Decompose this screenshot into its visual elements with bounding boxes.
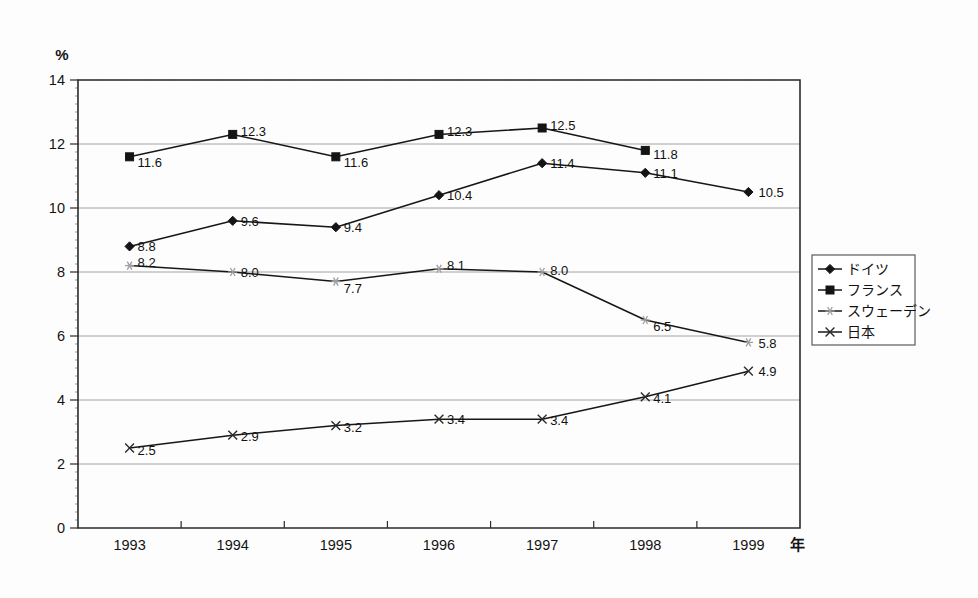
data-point-marker xyxy=(228,268,237,276)
data-point-marker xyxy=(228,216,237,225)
x-axis-unit-label: 年 xyxy=(790,536,805,553)
data-point-label: 12.3 xyxy=(241,124,266,139)
line-chart: 02468101214 1993199419951996199719981999… xyxy=(0,0,978,598)
legend-item-label: フランス xyxy=(847,282,903,298)
series-line xyxy=(130,371,749,448)
y-tick-label: 0 xyxy=(57,520,65,536)
data-point-label: 11.6 xyxy=(344,155,368,170)
data-point-marker xyxy=(229,130,237,138)
data-point-label: 11.4 xyxy=(550,156,574,171)
data-point-marker xyxy=(744,187,753,196)
data-point-label: 4.1 xyxy=(653,391,671,406)
data-point-label: 11.1 xyxy=(653,166,677,181)
data-point-marker xyxy=(538,268,547,276)
axes-frame xyxy=(78,80,800,528)
data-point-marker xyxy=(538,124,546,132)
legend-item-label: 日本 xyxy=(847,324,875,340)
legend-item-label: スウェーデン xyxy=(847,303,931,319)
data-point-marker xyxy=(744,338,753,346)
x-tick-label: 1993 xyxy=(113,537,145,553)
x-tick-label: 1998 xyxy=(629,537,661,553)
data-point-marker xyxy=(125,262,134,270)
data-point-label: 11.6 xyxy=(138,155,162,170)
data-point-marker xyxy=(125,242,134,251)
y-tick-label: 10 xyxy=(49,200,65,216)
data-point-label: 7.7 xyxy=(344,281,362,296)
data-point-label: 9.6 xyxy=(241,214,259,229)
data-point-marker xyxy=(126,153,134,161)
y-tick-label: 12 xyxy=(49,136,65,152)
data-point-marker xyxy=(826,286,834,294)
data-point-marker xyxy=(331,278,340,286)
chart-canvas: 02468101214 1993199419951996199719981999… xyxy=(0,0,978,598)
data-point-label: 10.5 xyxy=(758,185,783,200)
x-axis-ticks: 1993199419951996199719981999 xyxy=(113,521,764,553)
legend-item-label: ドイツ xyxy=(847,261,889,277)
data-point-label: 8.2 xyxy=(138,255,156,270)
data-point-labels: 8.89.69.410.411.411.110.511.612.311.612.… xyxy=(138,118,784,458)
y-tick-label: 2 xyxy=(57,456,65,472)
y-tick-label: 4 xyxy=(57,392,65,408)
data-point-label: 9.4 xyxy=(344,220,362,235)
x-tick-label: 1995 xyxy=(320,537,352,553)
x-tick-label: 1999 xyxy=(732,537,764,553)
data-point-label: 12.5 xyxy=(550,118,575,133)
data-point-label: 2.5 xyxy=(138,443,156,458)
data-point-marker xyxy=(332,153,340,161)
data-point-label: 8.1 xyxy=(447,258,465,273)
legend: ドイツフランススウェーデン日本 xyxy=(812,255,931,345)
data-point-label: 8.0 xyxy=(241,265,259,280)
data-point-marker xyxy=(435,130,443,138)
data-point-label: 12.3 xyxy=(447,124,472,139)
data-point-marker xyxy=(641,146,649,154)
y-axis-ticks: 02468101214 xyxy=(49,72,78,536)
data-point-label: 5.8 xyxy=(758,336,776,351)
y-tick-label: 14 xyxy=(49,72,65,88)
data-point-marker xyxy=(538,159,547,168)
y-tick-label: 8 xyxy=(57,264,65,280)
data-point-label: 3.2 xyxy=(344,420,362,435)
data-point-marker xyxy=(641,168,650,177)
x-tick-label: 1996 xyxy=(423,537,455,553)
data-point-marker xyxy=(331,223,340,232)
data-point-label: 8.0 xyxy=(550,263,568,278)
data-point-label: 11.8 xyxy=(653,147,677,162)
data-point-label: 3.4 xyxy=(550,413,568,428)
data-point-label: 3.4 xyxy=(447,412,465,427)
data-point-label: 2.9 xyxy=(241,429,259,444)
data-point-marker xyxy=(434,191,443,200)
y-tick-label: 6 xyxy=(57,328,65,344)
data-point-label: 4.9 xyxy=(758,364,776,379)
data-point-label: 6.5 xyxy=(653,319,671,334)
data-point-marker xyxy=(641,316,650,324)
x-tick-label: 1997 xyxy=(526,537,558,553)
y-axis-unit-label: % xyxy=(55,46,68,63)
data-point-label: 8.8 xyxy=(138,239,156,254)
data-point-label: 10.4 xyxy=(447,188,472,203)
x-tick-label: 1994 xyxy=(217,537,249,553)
